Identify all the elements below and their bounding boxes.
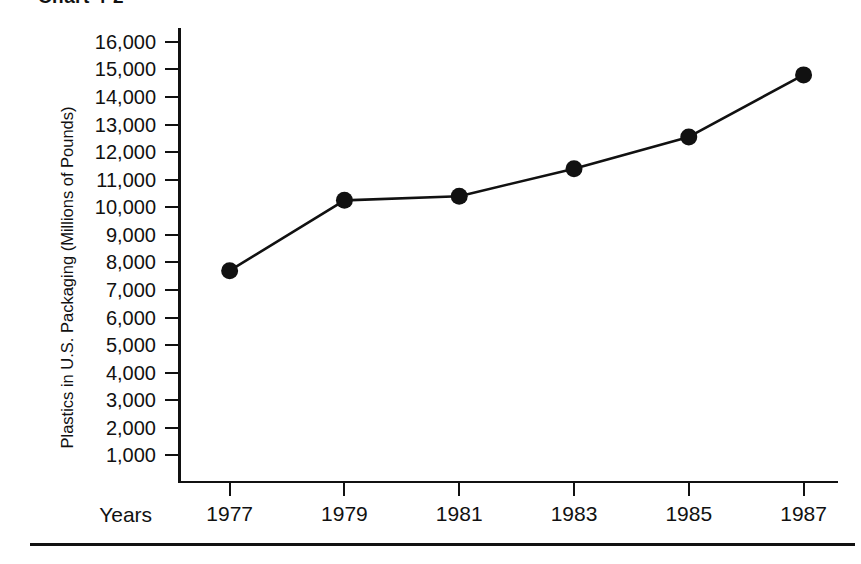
y-tick-label: 15,000	[95, 59, 156, 79]
x-tick-label: 1979	[321, 503, 368, 524]
data-point	[680, 128, 697, 145]
footer-rule	[30, 543, 855, 546]
y-tick-label: 16,000	[95, 32, 156, 52]
y-tick	[165, 344, 178, 346]
y-tick	[165, 179, 178, 181]
y-tick-label: 4,000	[106, 363, 156, 383]
x-tick	[803, 483, 805, 496]
y-tick-label: 11,000	[96, 170, 156, 190]
y-tick-label: 8,000	[106, 252, 156, 272]
y-tick-label: 2,000	[106, 418, 156, 438]
x-tick	[573, 483, 575, 496]
data-point	[566, 160, 583, 177]
y-tick	[165, 317, 178, 319]
y-tick-label: 3,000	[106, 390, 156, 410]
x-tick-label: 1977	[206, 503, 253, 524]
plot-area: 16,00015,00014,00013,00012,00011,00010,0…	[178, 28, 838, 483]
data-point	[795, 66, 812, 83]
y-tick	[165, 151, 178, 153]
y-tick-label: 7,000	[106, 280, 156, 300]
page-title: Chart 4-2	[38, 0, 124, 8]
x-tick	[229, 483, 231, 496]
y-tick-label: 9,000	[106, 225, 156, 245]
y-tick-label: 12,000	[95, 142, 156, 162]
y-tick-label: 10,000	[95, 197, 156, 217]
y-tick	[165, 454, 178, 456]
x-tick	[343, 483, 345, 496]
x-tick-label: 1983	[551, 503, 598, 524]
series-line	[230, 75, 804, 271]
y-tick-label: 13,000	[95, 115, 156, 135]
y-tick	[165, 399, 178, 401]
y-tick-label: 14,000	[95, 87, 156, 107]
x-axis-title: Years	[99, 503, 152, 527]
y-axis-title: Plastics in U.S. Packaging (Millions of …	[58, 68, 77, 488]
x-tick-label: 1981	[436, 503, 483, 524]
chart-figure: Chart 4-2 Plastics in U.S. Packaging (Mi…	[0, 0, 861, 564]
data-point	[336, 192, 353, 209]
y-tick	[165, 261, 178, 263]
data-series	[178, 28, 838, 483]
data-point	[451, 188, 468, 205]
x-tick-label: 1985	[665, 503, 712, 524]
data-point	[221, 262, 238, 279]
y-tick	[165, 41, 178, 43]
x-tick-label: 1987	[780, 503, 827, 524]
series-markers	[221, 66, 812, 279]
y-tick	[165, 234, 178, 236]
y-tick	[165, 68, 178, 70]
x-tick	[688, 483, 690, 496]
y-tick	[165, 206, 178, 208]
y-tick-label: 6,000	[106, 308, 156, 328]
y-tick	[165, 372, 178, 374]
y-tick-label: 1,000	[106, 445, 156, 465]
y-tick	[165, 289, 178, 291]
x-tick	[458, 483, 460, 496]
y-tick	[165, 96, 178, 98]
y-tick-label: 5,000	[106, 335, 156, 355]
y-tick	[165, 427, 178, 429]
y-tick	[165, 124, 178, 126]
